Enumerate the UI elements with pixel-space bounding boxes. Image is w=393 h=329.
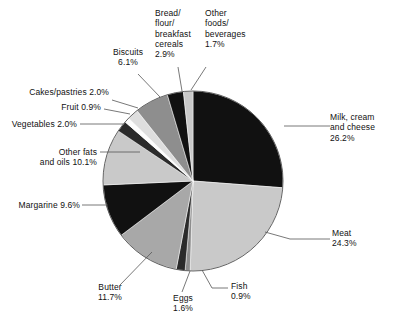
leader-fruit [104, 109, 130, 114]
slice-label-cakes: Cakes/pastries 2.0% [0, 87, 109, 97]
slice-label-fish: Fish 0.9% [231, 281, 271, 302]
leader-butter [120, 252, 152, 285]
leader-meat [265, 232, 330, 239]
leader-biscuits [138, 74, 160, 97]
leader-bread [178, 67, 182, 91]
slice-label-vegetables: Vegetables 2.0% [0, 119, 77, 129]
slice-label-other-fats: Other fats and oils 10.1% [0, 147, 97, 168]
slice-label-fruit: Fruit 0.9% [0, 102, 101, 112]
slice-label-bread: Bread/ flour/ breakfast cereals 2.9% [155, 8, 203, 59]
leader-cakes [112, 100, 138, 108]
pie-slice [193, 91, 283, 188]
slice-label-other-foods: Other foods/ beverages 1.7% [205, 8, 261, 49]
slice-label-milk: Milk, cream and cheese 26.2% [330, 112, 392, 143]
pie-slices [103, 91, 283, 271]
slice-label-meat: Meat 24.3% [332, 228, 390, 249]
pie-slice [190, 181, 283, 271]
slice-label-margarine: Margarine 9.6% [0, 200, 80, 210]
pie-chart: Milk, cream and cheese 26.2% Meat 24.3% … [0, 0, 393, 329]
leader-fish [202, 270, 228, 288]
slice-label-butter: Butter 11.7% [86, 282, 134, 303]
leader-eggs [182, 271, 190, 292]
slice-label-biscuits: Biscuits 6.1% [104, 47, 152, 68]
leader-otherfoods [191, 67, 206, 90]
slice-label-eggs: Eggs 1.6% [163, 293, 203, 314]
